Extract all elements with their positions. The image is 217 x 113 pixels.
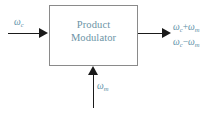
input-arrowhead-icon	[39, 28, 48, 38]
output-arrowhead-icon	[162, 28, 171, 38]
input-subscript: c	[21, 21, 24, 28]
usb-subscript-2: m	[195, 26, 200, 33]
lsb-subscript-2: m	[195, 41, 200, 48]
diagram-canvas: Product Modulator ωc ωm ωc+ωm ωc−ωm	[0, 0, 217, 113]
usb-symbol-1: ω	[173, 22, 180, 32]
output-connector-line	[138, 33, 163, 34]
lsb-symbol-1: ω	[173, 37, 180, 47]
modulating-connector-line	[93, 75, 94, 108]
modulating-arrowhead-icon	[88, 66, 98, 75]
usb-subscript-1: c	[180, 26, 183, 33]
block-label-line-1: Product	[77, 19, 110, 30]
modulating-symbol: ω	[97, 81, 104, 91]
output-signal-upper-sideband: ωc+ωm	[173, 20, 217, 35]
modulating-subscript: m	[104, 85, 109, 92]
output-signal-labels: ωc+ωm ωc−ωm	[173, 20, 217, 50]
lsb-symbol-2: ω	[188, 37, 195, 47]
product-modulator-label: Product Modulator	[49, 19, 138, 44]
lsb-subscript-1: c	[180, 41, 183, 48]
input-connector-line	[8, 33, 40, 34]
usb-symbol-2: ω	[188, 22, 195, 32]
block-label-line-2: Modulator	[49, 32, 138, 45]
modulating-signal-label: ωm	[97, 81, 108, 91]
input-signal-label: ωc	[14, 17, 24, 27]
input-symbol: ω	[14, 17, 21, 27]
output-signal-lower-sideband: ωc−ωm	[173, 35, 217, 50]
